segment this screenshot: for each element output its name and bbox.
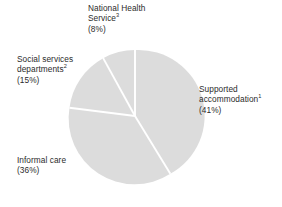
pie-label-social-percent: (15%)	[17, 75, 73, 85]
pie-label-social-line2-text: departments	[17, 64, 64, 74]
pie-label-supported-footnote-marker: 1	[258, 94, 261, 100]
pie-label-supported-line2-text: accommodation	[199, 94, 258, 104]
pie-label-nhs-line2-text: Service	[88, 13, 116, 23]
pie-label-supported-line2: accommodation1	[199, 94, 261, 104]
pie-label-informal-line1: Informal care	[17, 155, 66, 165]
pie-label-social-footnote-marker: 2	[64, 64, 67, 70]
pie-label-national-health-service: National Health Service3 (8%)	[88, 3, 145, 34]
pie-label-informal-percent: (36%)	[17, 165, 66, 175]
pie-label-supported-accommodation: Supported accommodation1 (41%)	[199, 84, 261, 115]
pie-label-nhs-line2: Service3	[88, 13, 145, 23]
pie-label-supported-percent: (41%)	[199, 105, 261, 115]
pie-label-social-services-departments: Social services departments2 (15%)	[17, 54, 73, 85]
pie-chart-figure: National Health Service3 (8%) Social ser…	[0, 0, 282, 207]
pie-label-social-line2: departments2	[17, 64, 73, 74]
pie-label-nhs-percent: (8%)	[88, 24, 145, 34]
pie-label-informal-care: Informal care (36%)	[17, 155, 66, 176]
pie-label-supported-line1: Supported	[199, 84, 261, 94]
pie-label-nhs-footnote-marker: 3	[116, 13, 119, 19]
